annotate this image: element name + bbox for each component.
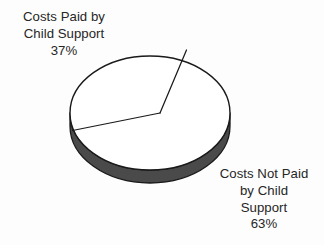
slice-label-costs-not-paid-value: 63%	[206, 216, 322, 233]
slice-label-costs-not-paid-line3: Support	[206, 200, 322, 217]
pie-top-face	[70, 56, 230, 170]
slice-label-costs-not-paid-line1: Costs Not Paid	[206, 166, 322, 183]
slice-label-costs-not-paid: Costs Not Paid by Child Support 63%	[206, 166, 322, 233]
slice-label-costs-paid: Costs Paid by Child Support 37%	[3, 9, 125, 59]
slice-label-costs-paid-line2: Child Support	[3, 26, 125, 43]
slice-label-costs-paid-value: 37%	[3, 43, 125, 60]
pie-chart-figure: Costs Paid by Child Support 37% Costs No…	[0, 0, 324, 245]
slice-label-costs-paid-line1: Costs Paid by	[3, 9, 125, 26]
slice-label-costs-not-paid-line2: by Child	[206, 183, 322, 200]
